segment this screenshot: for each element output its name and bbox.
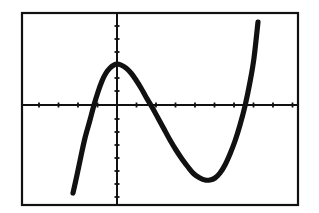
screenshot-root: Graph of a cubic function: [0, 0, 319, 213]
graph-figure: [0, 0, 319, 213]
figure-background: [0, 0, 319, 213]
